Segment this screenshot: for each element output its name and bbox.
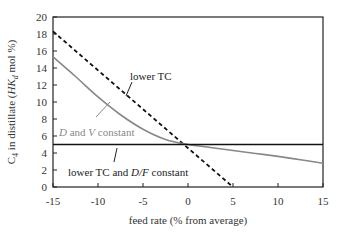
y-axis-ticks: 02468101214161820	[36, 11, 57, 193]
x-tick-label: -10	[91, 195, 106, 207]
series-line-0	[53, 31, 233, 187]
x-axis-title: feed rate (% from average)	[129, 214, 248, 227]
annot-arrow-lower-tc	[126, 82, 132, 96]
y-tick-label: 2	[42, 164, 48, 176]
y-tick-label: 12	[36, 79, 47, 91]
y-tick-label: 14	[36, 62, 48, 74]
y-tick-label: 10	[36, 96, 48, 108]
y-tick-label: 20	[36, 11, 48, 23]
x-tick-label: 0	[185, 195, 191, 207]
y-tick-label: 16	[36, 45, 48, 57]
x-tick-label: 5	[230, 195, 236, 207]
annotation-lower-tc-df-constant: lower TC and D/F constant	[68, 166, 188, 178]
plot-frame	[53, 17, 323, 187]
y-axis-title: C4 in distillate (HKd mol %)	[5, 39, 20, 164]
chart: 02468101214161820 -15-10-5051015 lower T…	[0, 0, 341, 232]
annot-arrow-dv	[96, 102, 110, 117]
y-tick-label: 0	[42, 181, 48, 193]
x-tick-label: -15	[46, 195, 61, 207]
annotation-lower-tc: lower TC	[130, 70, 172, 82]
y-tick-label: 8	[42, 113, 48, 125]
y-tick-label: 6	[42, 130, 48, 142]
x-tick-label: -5	[138, 195, 148, 207]
y-tick-label: 4	[42, 147, 48, 159]
x-tick-label: 10	[273, 195, 285, 207]
annotation-d-and-v-constant: D and V constant	[58, 126, 135, 138]
annot-arrow-df	[114, 148, 117, 162]
x-tick-label: 15	[318, 195, 330, 207]
series-layer	[53, 31, 323, 187]
y-tick-label: 18	[36, 28, 48, 40]
